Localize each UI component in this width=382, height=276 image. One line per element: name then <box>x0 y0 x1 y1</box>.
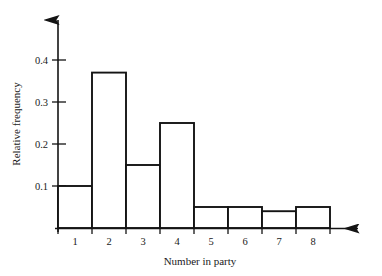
bar-8 <box>296 207 330 228</box>
histogram-chart: 0.4 0.3 0.2 0.1 Relative frequency <box>0 0 382 276</box>
histogram-bars <box>58 73 330 228</box>
bar-6 <box>228 207 262 228</box>
bar-3 <box>126 165 160 228</box>
bar-7 <box>262 211 296 228</box>
x-tick-label-1: 1 <box>72 236 77 247</box>
bar-2 <box>92 73 126 228</box>
x-tick-label-2: 2 <box>106 236 111 247</box>
x-tick-label-4: 4 <box>174 236 180 247</box>
x-tick-label-8: 8 <box>310 236 315 247</box>
bar-4 <box>160 123 194 228</box>
y-axis-ticks <box>52 60 66 186</box>
bar-1 <box>58 186 92 228</box>
y-tick-label-3: 0.3 <box>35 97 48 108</box>
x-tick-label-5: 5 <box>208 236 213 247</box>
y-tick-label-2: 0.2 <box>35 139 48 150</box>
chart-canvas: 0.4 0.3 0.2 0.1 Relative frequency <box>0 0 382 276</box>
x-axis-title: Number in party <box>164 255 237 267</box>
y-axis-title: Relative frequency <box>10 82 22 166</box>
x-tick-label-6: 6 <box>242 236 247 247</box>
x-tick-label-7: 7 <box>276 236 281 247</box>
y-tick-label-4: 0.4 <box>35 55 49 66</box>
x-tick-label-3: 3 <box>140 236 145 247</box>
bar-5 <box>194 207 228 228</box>
y-tick-label-1: 0.1 <box>35 181 48 192</box>
